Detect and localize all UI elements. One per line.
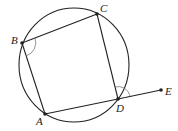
point-c bbox=[95, 12, 99, 16]
geometry-diagram: A B C D E bbox=[0, 0, 178, 131]
label-a: A bbox=[35, 115, 43, 127]
segment-da bbox=[45, 99, 118, 114]
segment-bc bbox=[22, 14, 97, 43]
point-b bbox=[20, 41, 24, 45]
label-d: D bbox=[115, 102, 124, 114]
circumcircle bbox=[19, 8, 129, 122]
point-d bbox=[116, 97, 120, 101]
point-a bbox=[43, 112, 47, 116]
label-c: C bbox=[100, 2, 108, 14]
point-e bbox=[159, 88, 163, 92]
label-b: B bbox=[11, 34, 18, 46]
label-e: E bbox=[164, 85, 172, 97]
segment-de bbox=[118, 90, 161, 99]
